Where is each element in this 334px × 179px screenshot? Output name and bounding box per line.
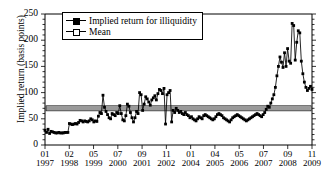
y-tick-label: 200 (12, 34, 38, 44)
y-tick-label: 50 (12, 113, 38, 123)
chart-figure: Implied return (basis points) 0501001502… (0, 0, 334, 179)
legend-swatch-filled-square-icon (66, 16, 86, 25)
legend-swatch-open-square-icon (66, 27, 86, 36)
legend-label-mean: Mean (89, 27, 111, 37)
legend-item-implied-return: Implied return for illiquidity (66, 15, 197, 26)
legend-label-implied-return: Implied return for illiquidity (89, 16, 197, 26)
legend-item-mean: Mean (66, 26, 197, 37)
y-tick-label: 250 (12, 8, 38, 18)
legend: Implied return for illiquidity Mean (62, 12, 203, 40)
y-tick-label: 150 (12, 60, 38, 70)
y-tick-label: 0 (12, 139, 38, 149)
x-tick-year: 2009 (295, 159, 329, 168)
y-tick-label: 100 (12, 87, 38, 97)
x-tick-label: 112009 (295, 150, 329, 169)
